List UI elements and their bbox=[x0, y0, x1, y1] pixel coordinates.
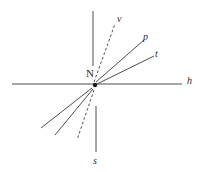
label-s: s bbox=[93, 156, 97, 166]
label-t: t bbox=[155, 49, 158, 59]
label-v: v bbox=[117, 14, 121, 24]
diagram-canvas bbox=[0, 0, 204, 172]
label-h: h bbox=[187, 76, 192, 86]
ray-t bbox=[97, 56, 154, 84]
ray-p bbox=[96, 40, 144, 82]
label-p: p bbox=[143, 32, 148, 42]
vector-ray-diagram: N v p t h s bbox=[0, 0, 204, 172]
ray-lower-left-outer bbox=[41, 88, 92, 128]
label-center-n: N bbox=[86, 68, 94, 79]
center-point-dot bbox=[93, 83, 97, 87]
ray-v bbox=[94, 24, 115, 82]
